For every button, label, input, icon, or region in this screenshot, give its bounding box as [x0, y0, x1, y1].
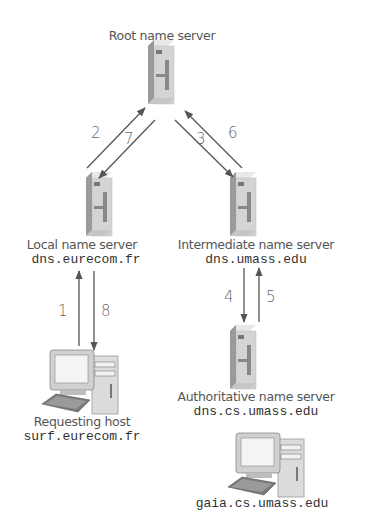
authoritative-server-host: dns.cs.umass.edu [194, 404, 319, 419]
intermediate-server-host: dns.umass.edu [205, 252, 306, 267]
step-6-label: 6 [228, 124, 238, 142]
step-5-label: 5 [266, 288, 276, 306]
local-server-icon [86, 172, 112, 236]
dns-query-diagram: Root name server Local name server dns.e… [0, 0, 370, 528]
step-4-label: 4 [224, 288, 234, 306]
root-server-icon [148, 40, 174, 104]
local-server-title: Local name server [27, 237, 137, 252]
intermediate-server-icon [230, 172, 256, 236]
requesting-host-name: surf.eurecom.fr [23, 429, 140, 444]
requesting-host-title: Requesting host [34, 414, 131, 429]
requesting-host-icon [42, 350, 118, 414]
step-7-label: 7 [124, 130, 134, 148]
step-3-label: 3 [196, 130, 206, 148]
intermediate-server-title: Intermediate name server [178, 237, 334, 252]
step-2-label: 2 [91, 124, 101, 142]
local-server-host: dns.eurecom.fr [31, 252, 140, 267]
root-server-title: Root name server [109, 28, 216, 43]
target-host-icon [228, 433, 304, 497]
target-host-name: gaia.cs.umass.edu [196, 496, 329, 511]
authoritative-server-title: Authoritative name server [177, 389, 334, 404]
step-1-label: 1 [58, 302, 68, 320]
step-8-label: 8 [101, 302, 111, 320]
authoritative-server-icon [230, 325, 256, 389]
